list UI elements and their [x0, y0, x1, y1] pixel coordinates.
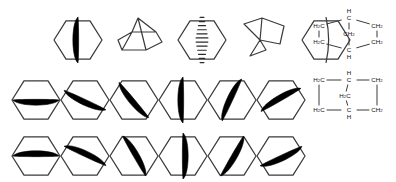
condensed-formula-square: H2CCHCH2H2CH2CCHCH2: [305, 66, 393, 118]
atom-label-c-right-lower: CH2: [371, 38, 383, 45]
bold-wedge-bridge: [260, 146, 302, 166]
perspective-norbornane-upright: [112, 10, 168, 60]
hexagon-bold-wedge-vertical-bridge: [48, 10, 108, 70]
hexagon-hashed-wedge-vertical-bridge: [172, 10, 232, 70]
bold-wedge-bridge: [222, 79, 242, 121]
atom-label-c-top-right: CH2: [371, 76, 383, 83]
hexagon-wedge-rot-335: [251, 126, 311, 182]
atom-label-c-top-center-hydrogen: H: [347, 69, 351, 76]
hashed-wedge-bridge: [196, 17, 208, 62]
perspective-norbornane-tilted: [236, 10, 292, 60]
bold-wedge-bridge: [13, 151, 59, 157]
atom-label-c-center: H2C: [339, 92, 351, 99]
bold-wedge-bridge: [64, 90, 106, 110]
bold-wedge-bridge: [220, 136, 243, 176]
bold-wedge-bridge: [178, 77, 184, 123]
bold-wedge-bridge: [119, 82, 149, 117]
atom-label-c-bottom: C: [347, 46, 352, 53]
bold-wedge-bridge: [261, 88, 301, 111]
atom-label-c-bot-left: H2C: [313, 106, 325, 113]
atom-label-c-top-left: H2C: [313, 76, 325, 83]
atom-label-c-bot-center-hydrogen: H: [347, 113, 351, 120]
atom-label-c-right-upper: CH2: [371, 22, 383, 29]
chemistry-figure: CHH2CCH2CH2H2CCH2CHH2CCHCH2H2CH2CCHCH2: [0, 0, 396, 182]
atom-label-c-top-center: C: [347, 76, 352, 83]
atom-labels: CHH2CCH2CH2H2CCH2CH: [313, 7, 383, 60]
atom-label-c-left-lower: H2C: [313, 38, 325, 45]
hexagon-wedge-rot-150: [251, 70, 311, 130]
atom-label-c-bottom-hydrogen: H: [347, 53, 351, 60]
atom-label-c-bot-right: CH2: [371, 106, 383, 113]
bold-wedge-bridge: [13, 99, 59, 105]
atom-label-c-top-hydrogen: H: [347, 7, 351, 14]
bold-wedge-bridge: [182, 133, 188, 179]
atom-label-c-bridge: CH2: [343, 30, 355, 37]
bold-wedge-bridge: [64, 146, 106, 166]
atom-label-c-top: C: [347, 14, 352, 21]
condensed-formula-bridged: CHH2CCH2CH2H2CCH2CH: [305, 4, 393, 56]
bold-wedge-bridge: [73, 17, 79, 63]
atom-label-c-bot-center: C: [347, 106, 352, 113]
atom-labels: H2CCHCH2H2CH2CCHCH2: [313, 69, 383, 120]
bold-wedge-bridge: [122, 136, 145, 176]
atom-label-c-left-upper: H2C: [313, 22, 325, 29]
